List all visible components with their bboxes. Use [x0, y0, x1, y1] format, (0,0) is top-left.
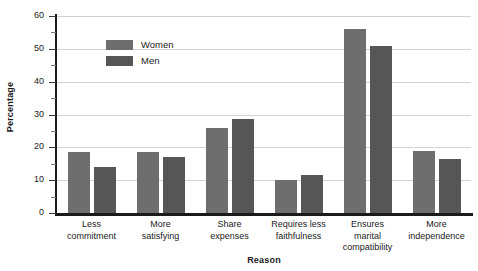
y-tick-minor	[51, 98, 56, 99]
women-swatch-icon	[106, 40, 133, 50]
y-tick-label: 30	[14, 110, 44, 119]
x-tick-label-line: More	[394, 219, 478, 231]
y-tick-major	[49, 49, 56, 50]
y-tick-label: 0	[14, 208, 44, 217]
y-tick-minor	[51, 131, 56, 132]
x-tick-label-line: independence	[394, 231, 478, 243]
bar	[413, 151, 435, 213]
bar	[439, 159, 461, 213]
y-tick-major	[49, 213, 56, 214]
y-tick-major	[49, 115, 56, 116]
y-tick-major	[49, 147, 56, 148]
men-swatch-icon	[106, 56, 133, 66]
y-tick-minor	[51, 65, 56, 66]
x-axis-title: Reason	[57, 255, 471, 265]
bar	[68, 152, 90, 213]
legend: Women Men	[106, 38, 174, 70]
bar	[275, 180, 297, 213]
x-axis-line	[55, 213, 473, 216]
legend-label-men: Men	[141, 56, 159, 66]
y-tick-label: 40	[14, 77, 44, 86]
bar	[370, 46, 392, 213]
y-tick-minor	[51, 197, 56, 198]
y-tick-label: 50	[14, 44, 44, 53]
bar-chart: Percentage 0102030405060 LesscommitmentM…	[0, 0, 478, 271]
y-tick-minor	[51, 164, 56, 165]
x-tick-label-line: compatibility	[325, 242, 411, 254]
y-tick-major	[49, 180, 56, 181]
y-tick-minor	[51, 32, 56, 33]
y-tick-label: 60	[14, 11, 44, 20]
bar	[232, 119, 254, 213]
bar	[206, 128, 228, 213]
y-tick-major	[49, 16, 56, 17]
bar	[94, 167, 116, 213]
y-tick-label: 10	[14, 175, 44, 184]
bar	[344, 29, 366, 213]
y-axis-title-label: Percentage	[5, 81, 15, 132]
legend-label-women: Women	[141, 40, 174, 50]
y-tick-label: 20	[14, 142, 44, 151]
legend-item-women: Women	[106, 38, 174, 51]
y-tick-major	[49, 82, 56, 83]
legend-item-men: Men	[106, 54, 174, 67]
bar	[137, 152, 159, 213]
x-tick-label: Moreindependence	[394, 219, 478, 242]
bar	[163, 157, 185, 213]
bar	[301, 175, 323, 213]
